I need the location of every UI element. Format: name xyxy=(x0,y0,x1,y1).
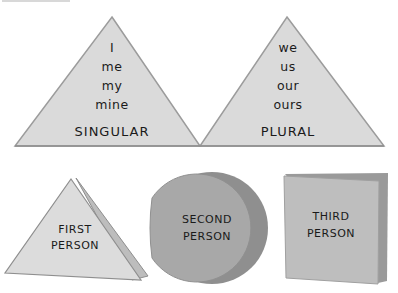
plural-words: we us our ours xyxy=(256,38,320,114)
pronoun-word: mine xyxy=(80,95,144,114)
plural-caption: PLURAL xyxy=(238,124,338,139)
pronoun-word: ours xyxy=(256,95,320,114)
pronoun-word: my xyxy=(80,76,144,95)
pronoun-word: I xyxy=(80,38,144,57)
pronoun-word: me xyxy=(80,57,144,76)
singular-caption: SINGULAR xyxy=(62,124,162,139)
singular-words: I me my mine xyxy=(80,38,144,114)
second-person-label: SECOND PERSON xyxy=(172,211,242,245)
pronoun-diagram: I me my mine SINGULAR we us our ours PLU… xyxy=(0,0,398,293)
pronoun-word: our xyxy=(256,76,320,95)
first-person-label: FIRST PERSON xyxy=(45,222,105,254)
pronoun-word: us xyxy=(256,57,320,76)
third-person-label: THIRD PERSON xyxy=(296,208,366,242)
pronoun-word: we xyxy=(256,38,320,57)
